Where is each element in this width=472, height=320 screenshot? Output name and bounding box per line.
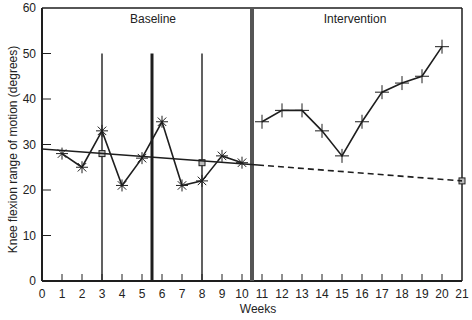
y-tick-label: 60 <box>23 1 37 15</box>
x-tick-label: 11 <box>256 287 269 301</box>
projected-trend-line <box>258 165 462 181</box>
y-tick-label: 0 <box>29 274 36 288</box>
phase-label: Intervention <box>324 12 387 26</box>
y-tick-label: 20 <box>23 183 37 197</box>
x-tick-label: 13 <box>295 287 309 301</box>
x-tick-label: 6 <box>159 287 166 301</box>
x-tick-label: 15 <box>335 287 349 301</box>
intervention-data-line <box>262 47 442 156</box>
x-tick-label: 7 <box>179 287 186 301</box>
x-tick-label: 1 <box>59 287 66 301</box>
x-tick-label: 20 <box>435 287 449 301</box>
x-tick-label: 10 <box>235 287 249 301</box>
x-tick-label: 17 <box>375 287 389 301</box>
x-tick-label: 8 <box>199 287 206 301</box>
y-tick-label: 30 <box>23 138 37 152</box>
y-axis-ticks: 0102030405060 <box>23 1 51 288</box>
line-chart: 0102030405060012345678910111213141516171… <box>0 0 472 320</box>
x-tick-label: 21 <box>455 287 469 301</box>
x-tick-label: 16 <box>355 287 369 301</box>
x-tick-label: 2 <box>79 287 86 301</box>
x-tick-label: 9 <box>219 287 226 301</box>
x-tick-label: 19 <box>415 287 429 301</box>
y-tick-label: 50 <box>23 47 37 61</box>
data-markers <box>56 40 465 192</box>
x-axis-title: Weeks <box>240 302 276 316</box>
chart-container: 0102030405060012345678910111213141516171… <box>0 0 472 320</box>
y-tick-label: 40 <box>23 92 37 106</box>
phase-label: Baseline <box>130 12 176 26</box>
x-tick-label: 4 <box>119 287 126 301</box>
y-axis-title: Knee flexion range of motion (degrees) <box>6 46 20 253</box>
x-tick-label: 0 <box>39 287 46 301</box>
x-tick-label: 12 <box>275 287 289 301</box>
x-tick-label: 18 <box>395 287 409 301</box>
x-tick-label: 5 <box>139 287 146 301</box>
y-tick-label: 10 <box>23 229 37 243</box>
x-tick-label: 3 <box>99 287 106 301</box>
x-tick-label: 14 <box>315 287 329 301</box>
